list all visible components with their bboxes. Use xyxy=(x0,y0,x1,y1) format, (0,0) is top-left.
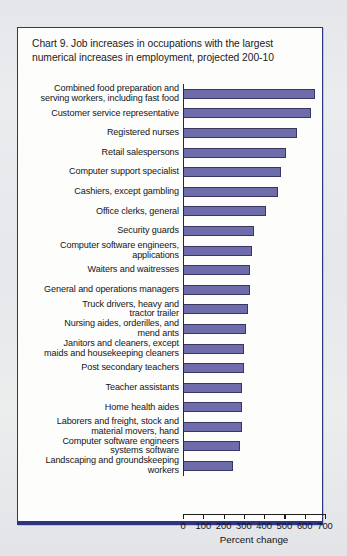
bar-track xyxy=(183,143,324,163)
bar-row: Post secondary teachers xyxy=(18,358,324,378)
x-axis-tick-label: 200 xyxy=(216,520,232,531)
x-axis-tick-label: 600 xyxy=(297,520,313,531)
bar xyxy=(183,324,246,334)
x-axis-tick-label: 700 xyxy=(317,520,333,531)
bar-row: Landscaping and groundskeeping workers xyxy=(18,456,324,476)
bar-track xyxy=(183,123,324,143)
plot-area: Combined food preparation and serving wo… xyxy=(18,84,324,514)
bar-row: Home health aides xyxy=(18,398,324,418)
bar-track xyxy=(183,202,324,222)
bar-category-label: Post secondary teachers xyxy=(18,363,183,373)
bar-row: Computer software engineers, application… xyxy=(18,241,324,261)
bar xyxy=(183,402,242,412)
bar xyxy=(183,265,250,275)
y-axis-line xyxy=(183,84,184,476)
bar-track xyxy=(183,398,324,418)
bar xyxy=(183,422,242,432)
chart-panel: Chart 9. Job increases in occupations wi… xyxy=(17,27,323,525)
bar-category-label: Retail salespersons xyxy=(18,148,183,158)
bar-track xyxy=(183,378,324,398)
x-axis-tick xyxy=(183,514,184,519)
bar-row: Nursing aides, orderilles, and mend ants xyxy=(18,319,324,339)
bar-row: Truck drivers, heavy and tractor trailer xyxy=(18,300,324,320)
bar xyxy=(183,206,266,216)
bar-track xyxy=(183,417,324,437)
bar-row: Registered nurses xyxy=(18,123,324,143)
x-axis: Percent change 0100200300400500600700 xyxy=(18,514,324,554)
x-axis-tick-label: 500 xyxy=(277,520,293,531)
chart-title: Chart 9. Job increases in occupations wi… xyxy=(32,37,310,64)
bar xyxy=(183,167,281,177)
bar-track xyxy=(183,319,324,339)
bar-category-label: Office clerks, general xyxy=(18,207,183,217)
bar xyxy=(183,304,248,314)
bar xyxy=(183,226,254,236)
x-axis-tick xyxy=(264,514,265,519)
bar-track xyxy=(183,104,324,124)
bar-category-label: General and operations managers xyxy=(18,285,183,295)
x-axis-tick xyxy=(284,514,285,519)
x-axis-title: Percent change xyxy=(183,534,325,545)
x-axis-tick-label: 0 xyxy=(180,520,185,531)
bar-category-label: Laborers and freight, stock and material… xyxy=(18,417,183,436)
bar xyxy=(183,285,250,295)
bar xyxy=(183,461,233,471)
x-axis-tick xyxy=(305,514,306,519)
bar xyxy=(183,128,297,138)
bar-category-label: Registered nurses xyxy=(18,128,183,138)
bar-row: Office clerks, general xyxy=(18,202,324,222)
bar-category-label: Security guards xyxy=(18,226,183,236)
x-axis-tick xyxy=(203,514,204,519)
bar-row: Security guards xyxy=(18,221,324,241)
bar xyxy=(183,187,278,197)
bar-row: Teacher assistants xyxy=(18,378,324,398)
bar xyxy=(183,108,311,118)
bar-category-label: Combined food preparation and serving wo… xyxy=(18,84,183,103)
bar-row: Cashiers, except gambling xyxy=(18,182,324,202)
bar xyxy=(183,344,244,354)
x-axis-tick-label: 300 xyxy=(236,520,252,531)
bar-row: Computer support specialist xyxy=(18,162,324,182)
bar-track xyxy=(183,241,324,261)
bar-track xyxy=(183,339,324,359)
bar xyxy=(183,148,286,158)
bar-track xyxy=(183,280,324,300)
bar-track xyxy=(183,260,324,280)
bar-category-label: Customer service representative xyxy=(18,109,183,119)
bar-row: Computer software engineers systems soft… xyxy=(18,437,324,457)
bar-track xyxy=(183,358,324,378)
x-axis-tick xyxy=(224,514,225,519)
bar-category-label: Computer software engineers systems soft… xyxy=(18,437,183,456)
bar-category-label: Cashiers, except gambling xyxy=(18,187,183,197)
bar-category-label: Waiters and waitresses xyxy=(18,265,183,275)
x-axis-tick-label: 400 xyxy=(256,520,272,531)
bar-category-label: Janitors and cleaners, except maids and … xyxy=(18,339,183,358)
bar-category-label: Computer software engineers, application… xyxy=(18,241,183,260)
bar-row: Retail salespersons xyxy=(18,143,324,163)
bar-row: Waiters and waitresses xyxy=(18,260,324,280)
bar xyxy=(183,246,252,256)
bar-track xyxy=(183,182,324,202)
bar-category-label: Nursing aides, orderilles, and mend ants xyxy=(18,319,183,338)
bar-category-label: Teacher assistants xyxy=(18,383,183,393)
bar-track xyxy=(183,456,324,476)
bar-row: Janitors and cleaners, except maids and … xyxy=(18,339,324,359)
x-axis-tick xyxy=(325,514,326,519)
bar-category-label: Home health aides xyxy=(18,403,183,413)
bar-track xyxy=(183,300,324,320)
bar-track xyxy=(183,162,324,182)
bar-row: General and operations managers xyxy=(18,280,324,300)
bar xyxy=(183,441,240,451)
bar xyxy=(183,89,315,99)
bar-track xyxy=(183,221,324,241)
bar-track xyxy=(183,437,324,457)
x-axis-tick-label: 100 xyxy=(195,520,211,531)
bar-category-label: Computer support specialist xyxy=(18,167,183,177)
bar-category-label: Landscaping and groundskeeping workers xyxy=(18,456,183,475)
x-axis-tick xyxy=(244,514,245,519)
bar-track xyxy=(183,84,324,104)
bar-row: Customer service representative xyxy=(18,104,324,124)
bar-row: Combined food preparation and serving wo… xyxy=(18,84,324,104)
bar xyxy=(183,383,242,393)
bar-row: Laborers and freight, stock and material… xyxy=(18,417,324,437)
